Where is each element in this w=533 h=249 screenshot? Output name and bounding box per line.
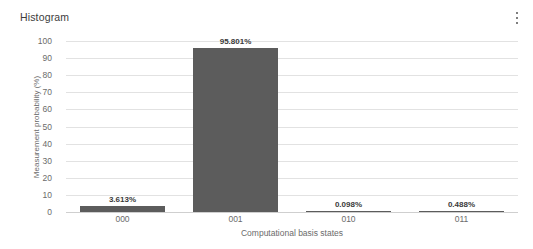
y-tick-label: 60 (43, 104, 52, 114)
bar-value-label: 0.098% (292, 200, 405, 209)
y-tick-label: 80 (43, 70, 52, 80)
y-tick-label: 50 (43, 122, 52, 132)
bar[interactable] (193, 48, 279, 212)
bar-slot: 3.613% (66, 41, 179, 212)
bar[interactable] (80, 206, 166, 212)
bar-value-label: 0.488% (405, 200, 518, 209)
x-tick-label: 011 (405, 214, 518, 224)
bar-slot: 95.801% (179, 41, 292, 212)
menu-dot (516, 17, 518, 19)
page-title: Histogram (20, 11, 69, 23)
bar[interactable] (306, 211, 392, 213)
bar-slot: 0.488% (405, 41, 518, 212)
x-axis-ticks: 000001010011 (66, 214, 518, 228)
y-tick-label: 20 (43, 173, 52, 183)
y-tick-label: 30 (43, 156, 52, 166)
x-tick-label: 001 (179, 214, 292, 224)
gridline (66, 212, 518, 213)
y-tick-label: 70 (43, 87, 52, 97)
y-tick-label: 10 (43, 190, 52, 200)
bar-value-label: 95.801% (179, 37, 292, 46)
x-axis-title: Computational basis states (66, 228, 518, 238)
y-tick-label: 40 (43, 139, 52, 149)
bar[interactable] (419, 211, 505, 213)
x-tick-label: 010 (292, 214, 405, 224)
y-axis-ticks: 1009080706050403020100 (0, 41, 60, 212)
histogram-panel: Histogram Measurement probability (%) 10… (0, 0, 533, 249)
bar-value-label: 3.613% (66, 195, 179, 204)
y-tick-label: 100 (38, 36, 52, 46)
menu-dot (516, 22, 518, 24)
y-tick-label: 90 (43, 53, 52, 63)
y-tick-label: 0 (47, 207, 52, 217)
bar-series: 3.613%95.801%0.098%0.488% (66, 41, 518, 212)
menu-dot (516, 12, 518, 14)
x-tick-label: 000 (66, 214, 179, 224)
more-vertical-icon[interactable] (510, 8, 524, 28)
bar-slot: 0.098% (292, 41, 405, 212)
